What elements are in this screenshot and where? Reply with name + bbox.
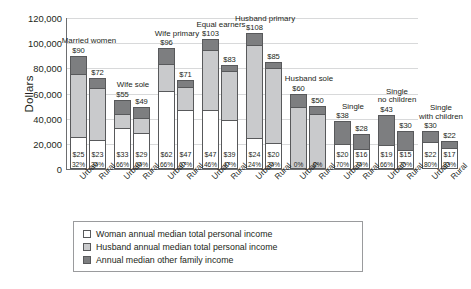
legend-swatch-other-icon bbox=[83, 256, 91, 264]
group-caption: Singleno children bbox=[367, 88, 427, 105]
y-axis-tick-100000: 100,000 bbox=[10, 39, 62, 48]
legend-label-other: Annual median other family income bbox=[96, 255, 233, 265]
group-caption: Married women bbox=[59, 37, 119, 46]
legend-item-husband: Husband annual median total personal inc… bbox=[83, 240, 354, 253]
y-axis-tick-120000: 120,000 bbox=[10, 14, 62, 23]
y-axis-tick-0: 0 bbox=[10, 165, 62, 174]
legend-item-other: Annual median other family income bbox=[83, 253, 354, 266]
y-axis-tick-40000: 40,000 bbox=[10, 114, 62, 123]
group-caption: Husband primary bbox=[235, 15, 295, 24]
y-axis-tick-20000: 20,000 bbox=[10, 139, 62, 148]
y-axis-tick-labels: 020,00040,00060,00080,000100,000120,000 bbox=[10, 18, 62, 170]
x-axis-tick-labels: UrbanRuralUrbanRuralUrbanRuralUrbanRural… bbox=[66, 172, 418, 212]
group-captions: Married womenWife soleWife primaryEqual … bbox=[67, 18, 418, 169]
y-axis-tick-80000: 80,000 bbox=[10, 64, 62, 73]
woman-share-percent: 80% bbox=[424, 161, 437, 168]
legend-label-woman: Woman annual median total personal incom… bbox=[96, 229, 272, 239]
group-caption: Wife primary bbox=[147, 30, 207, 39]
bar-total-label: $30 bbox=[424, 121, 437, 130]
chart-legend: Woman annual median total personal incom… bbox=[73, 221, 363, 272]
bar-total-label: $22 bbox=[443, 131, 456, 140]
legend-label-husband: Husband annual median total personal inc… bbox=[96, 242, 277, 252]
group-caption: Singlewith children bbox=[411, 104, 471, 121]
segment-other-family-income bbox=[423, 132, 438, 142]
legend-swatch-husband-icon bbox=[83, 243, 91, 251]
legend-swatch-woman-icon bbox=[83, 230, 91, 238]
group-caption: Wife sole bbox=[103, 81, 163, 90]
plot-area: $90$2532%$72$2334%$55$3366%$49$2964%$96$… bbox=[66, 18, 418, 170]
legend-item-woman: Woman annual median total personal incom… bbox=[83, 227, 354, 240]
y-axis-tick-60000: 60,000 bbox=[10, 89, 62, 98]
woman-income-label: $22 bbox=[425, 151, 437, 159]
bar-slot: $22$1783% bbox=[441, 18, 458, 169]
group-caption: Husband sole bbox=[279, 75, 339, 84]
bar-group: $30$2280%$22$1783% bbox=[422, 18, 460, 169]
